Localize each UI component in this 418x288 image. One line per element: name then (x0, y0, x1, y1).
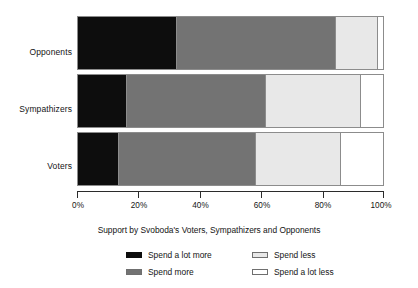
category-label-opponents: Opponents (30, 48, 73, 57)
legend-item: Spend less (252, 251, 315, 259)
x-axis-tick-label: 60% (254, 202, 270, 210)
x-axis-tick (138, 191, 139, 198)
bar-row (77, 16, 385, 70)
category-label-voters: Voters (47, 162, 72, 171)
x-axis-tick (200, 191, 201, 198)
bar-segment-spend-a-lot-less (341, 133, 383, 185)
legend-label: Spend a lot more (148, 251, 212, 259)
bar-segment-spend-a-lot-more (78, 17, 178, 69)
legend-swatch-spend-a-lot-less (252, 269, 268, 275)
bar-row (77, 132, 385, 186)
legend-swatch-spend-a-lot-more (126, 252, 142, 258)
legend-item: Spend a lot more (126, 251, 212, 259)
stacked-bar-chart: Opponents Sympathizers Voters (0, 0, 418, 288)
bar-segment-spend-less (266, 75, 361, 127)
legend-swatch-spend-less (252, 252, 268, 258)
bar-segment-spend-more (177, 17, 336, 69)
x-axis-tick (383, 191, 384, 198)
category-axis-labels: Opponents Sympathizers Voters (0, 0, 72, 190)
legend-item: Spend more (126, 268, 194, 276)
chart-legend: Spend a lot more Spend more Spend less S… (126, 251, 356, 283)
bar-segment-spend-less (256, 133, 341, 185)
x-axis-line (77, 191, 385, 192)
bar-segment-spend-more (127, 75, 265, 127)
bar-segment-spend-a-lot-more (78, 133, 120, 185)
x-axis-title: Support by Svoboda's Voters, Sympathizer… (0, 226, 418, 234)
x-axis-tick-label: 0% (72, 202, 84, 210)
legend-label: Spend less (274, 251, 315, 259)
bar-segment-spend-less (336, 17, 378, 69)
legend-label: Spend a lot less (274, 268, 334, 276)
bar-segment-spend-a-lot-less (378, 17, 383, 69)
legend-item: Spend a lot less (252, 268, 334, 276)
legend-label: Spend more (148, 268, 194, 276)
bar-segment-spend-more (119, 133, 256, 185)
x-axis-tick-label: 40% (192, 202, 208, 210)
x-axis-tick (261, 191, 262, 198)
bar-segment-spend-a-lot-less (361, 75, 383, 127)
category-label-sympathizers: Sympathizers (19, 105, 72, 114)
x-axis (77, 191, 385, 198)
plot-area (77, 16, 385, 188)
legend-swatch-spend-more (126, 269, 142, 275)
bar-row (77, 74, 385, 128)
bar-segment-spend-a-lot-more (78, 75, 128, 127)
x-axis-tick (323, 191, 324, 198)
x-axis-tick (77, 191, 78, 198)
x-axis-tick-label: 80% (315, 202, 331, 210)
x-axis-tick-label: 100% (371, 202, 392, 210)
x-axis-tick-label: 20% (131, 202, 147, 210)
